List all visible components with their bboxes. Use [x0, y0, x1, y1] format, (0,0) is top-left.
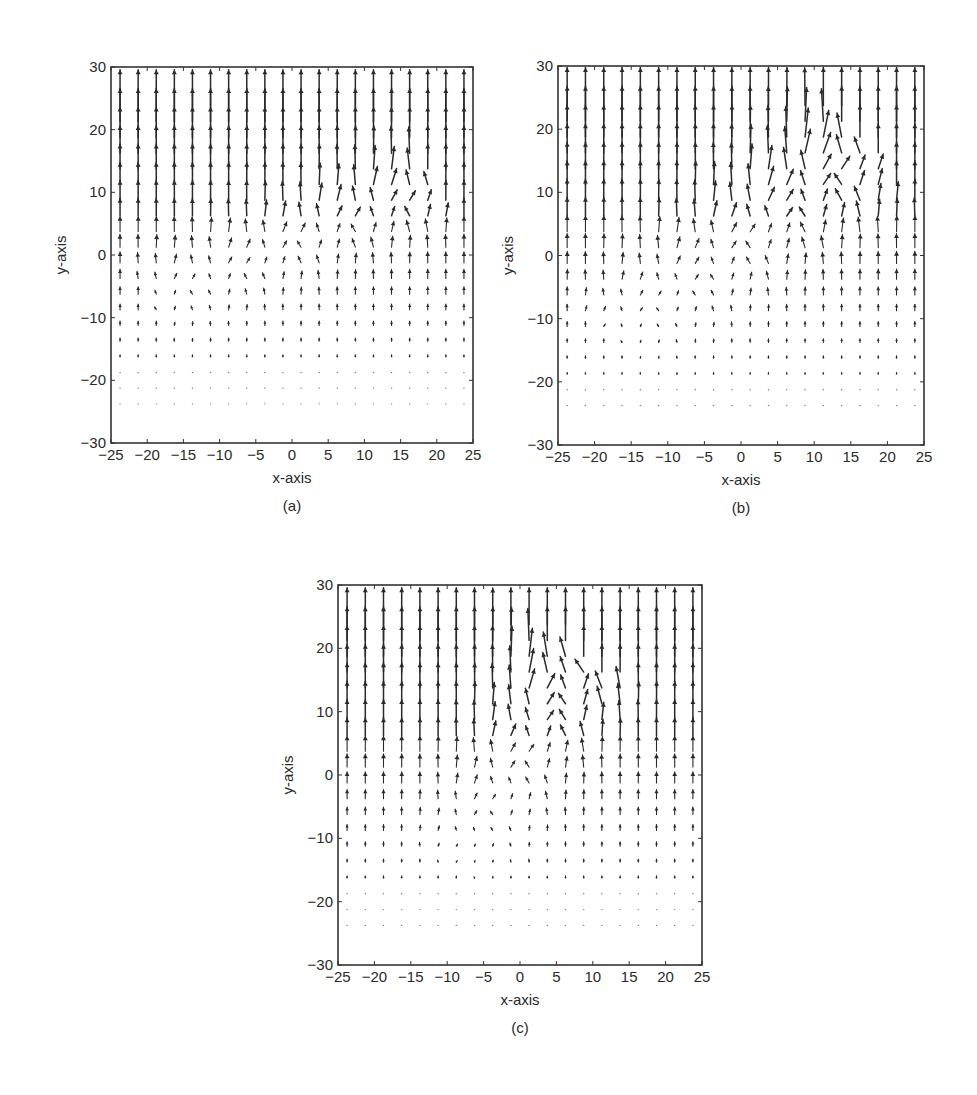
- x-tick-label: −20: [362, 968, 387, 985]
- x-tick-label: −15: [398, 968, 423, 985]
- x-tick-label: 0: [516, 968, 524, 985]
- y-tick-label: 30: [316, 576, 333, 593]
- y-tick-label: 0: [325, 766, 333, 783]
- panel-caption: (c): [511, 1019, 529, 1036]
- x-tick-label: 10: [584, 968, 601, 985]
- quiver-plot-c: −25−20−15−10−50510152025−30−20−100102030…: [0, 0, 977, 1095]
- y-tick-label: −30: [308, 956, 333, 973]
- x-axis-label: x-axis: [500, 991, 539, 1008]
- x-tick-label: −10: [434, 968, 459, 985]
- y-tick-label: 20: [316, 639, 333, 656]
- x-tick-label: 5: [552, 968, 560, 985]
- y-axis-label: y-axis: [279, 755, 296, 794]
- x-tick-label: 15: [621, 968, 638, 985]
- x-tick-label: 20: [657, 968, 674, 985]
- plot-frame: [338, 585, 702, 965]
- y-tick-label: −10: [308, 829, 333, 846]
- x-tick-label: −5: [475, 968, 492, 985]
- vector-field: [345, 588, 696, 926]
- y-tick-label: 10: [316, 703, 333, 720]
- y-tick-label: −20: [308, 893, 333, 910]
- x-tick-label: 25: [694, 968, 711, 985]
